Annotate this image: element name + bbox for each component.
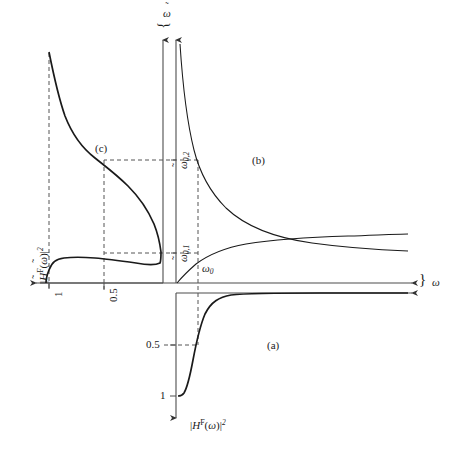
panel-tag-a: (a)	[267, 340, 279, 351]
axis-label-omega: ω	[432, 277, 440, 288]
tick-label-panel-c-one: 1	[53, 292, 64, 298]
tick-label-omega-tilde-01: ˜ω0,1	[178, 245, 191, 262]
axis-label-omega-tilde: ˜ω	[163, 8, 171, 19]
figure-canvas	[0, 0, 451, 453]
tick-label-panel-c-half: 0.5	[108, 288, 119, 302]
curve-panel-a	[178, 293, 408, 396]
axis-label-panel-c: |˜HF(˜ω)|2	[37, 247, 49, 283]
tick-label-panel-a-one: 1	[160, 390, 166, 401]
panel-tag-c: (c)	[95, 143, 107, 154]
axis-label-panel-a: |HF(ω)|2	[190, 419, 226, 431]
curve-panel-b-upper-branch	[180, 44, 408, 251]
brace-omega: }	[419, 272, 426, 287]
tick-label-panel-a-half: 0.5	[146, 339, 160, 350]
figure-root: ˜ω } } ω |˜HF(˜ω)|2 |HF(ω)|2 (c) (b) (a)…	[0, 0, 451, 453]
tick-label-omega0: ω0	[202, 263, 214, 276]
tick-label-omega-tilde-02: ˜ω0,2	[178, 152, 191, 169]
panel-tag-b: (b)	[252, 155, 265, 166]
